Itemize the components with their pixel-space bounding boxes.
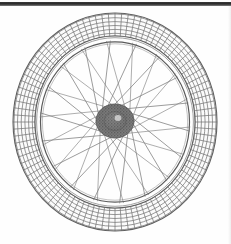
figure-page: Bicycle Wheel xyxy=(0,0,231,244)
bicycle-wheel-figure xyxy=(0,0,231,244)
wheel-hub xyxy=(96,104,134,138)
wheel-illustration xyxy=(0,0,231,244)
